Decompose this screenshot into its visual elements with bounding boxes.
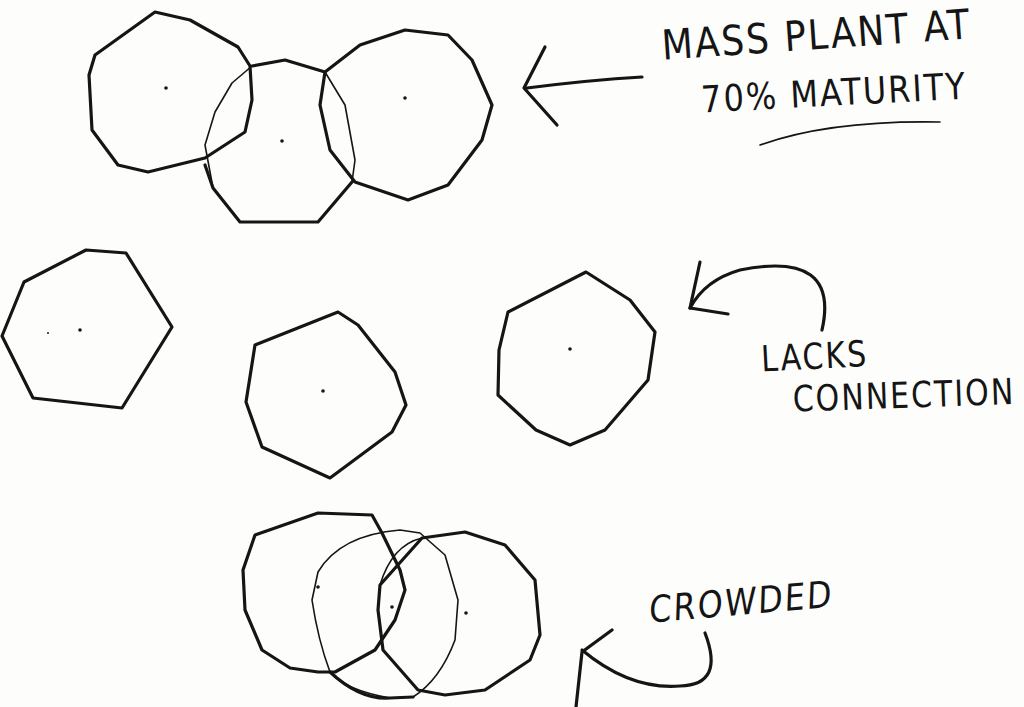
group-crowded <box>243 513 540 698</box>
group-lacks-connection <box>2 250 655 478</box>
sketch-paper: MASS PLANT AT 70% MATURITY LACKS CONNECT… <box>0 0 1024 707</box>
plant-center-dot <box>390 605 394 609</box>
arrow-shaft <box>582 633 711 686</box>
arrow-mass-plant <box>524 47 642 125</box>
plant-canopy-4 <box>2 250 172 408</box>
arrow-crowded <box>576 630 711 707</box>
arrow-head <box>690 262 728 314</box>
plant-canopy-6 <box>498 272 655 445</box>
plant-center-dot <box>78 328 82 332</box>
group-mass-plant <box>89 12 492 222</box>
label-lacks: LACKS <box>760 332 869 380</box>
label-maturity: MATURITY <box>789 64 968 117</box>
plant-canopy-5 <box>246 312 406 478</box>
plant-center-dot <box>464 611 468 615</box>
plant-center-dot <box>280 139 284 143</box>
plant-canopy-9 <box>378 532 540 695</box>
label-percentage: 70% <box>700 74 779 122</box>
label-connection: CONNECTION <box>792 370 1016 420</box>
speck <box>47 332 49 334</box>
arrow-shaft <box>690 266 825 330</box>
plant-center-dot <box>568 347 572 351</box>
plant-center-dot <box>321 389 325 393</box>
plant-canopy-2-outline <box>205 60 352 222</box>
arrow-shaft <box>527 77 642 88</box>
maturity-underline <box>760 122 940 145</box>
plant-center-dot <box>403 96 407 100</box>
arrow-lacks-connection <box>690 262 825 330</box>
plant-canopy-2-overlap <box>205 60 355 222</box>
plant-center-dot <box>164 86 168 90</box>
plant-center-dot <box>316 585 320 589</box>
plant-canopy-3 <box>320 30 492 200</box>
